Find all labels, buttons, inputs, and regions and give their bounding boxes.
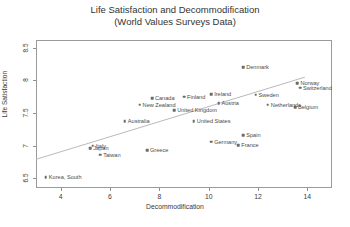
y-tick-mark	[33, 178, 36, 179]
data-point-label: Switzerland	[303, 85, 332, 91]
data-point	[242, 134, 245, 137]
y-tick-mark	[33, 113, 36, 114]
x-tick-label: 8	[157, 193, 161, 200]
x-axis-label: Decommodification	[0, 203, 350, 210]
y-tick-mark	[33, 146, 36, 147]
data-point	[138, 103, 141, 106]
data-point-label: Germany	[214, 139, 237, 145]
data-point	[217, 102, 220, 105]
scatter-chart: Life Satisfaction and Decommodification …	[0, 0, 350, 227]
data-point-label: Australia	[128, 118, 150, 124]
x-tick-label: 12	[254, 193, 262, 200]
data-point	[99, 153, 102, 156]
data-point	[89, 147, 92, 150]
y-tick-mark	[33, 48, 36, 49]
data-point-label: United Kingdom	[177, 107, 217, 113]
data-point	[296, 82, 299, 85]
data-point-label: Austria	[222, 100, 239, 106]
x-tick-mark	[307, 188, 308, 191]
x-tick-mark	[159, 188, 160, 191]
y-tick-label: 8.5	[22, 43, 29, 52]
data-point-label: Netherlands	[271, 102, 301, 108]
y-tick-label: 6.5	[22, 174, 29, 183]
data-point	[146, 149, 149, 152]
data-point	[193, 120, 196, 123]
x-tick-label: 10	[205, 193, 213, 200]
x-tick-mark	[110, 188, 111, 191]
data-point-label: Greece	[150, 147, 168, 153]
data-point-label: Canada	[155, 95, 175, 101]
data-point-label: New Zealand	[143, 102, 176, 108]
y-tick-mark	[33, 80, 36, 81]
x-tick-mark	[61, 188, 62, 191]
data-point	[210, 93, 213, 96]
y-tick-label: 8	[22, 79, 29, 83]
data-point	[124, 120, 127, 123]
data-point	[183, 95, 186, 98]
data-point-label: Japan	[93, 145, 108, 151]
data-point	[242, 66, 245, 69]
data-point	[254, 93, 257, 96]
data-point-label: United States	[197, 118, 231, 124]
data-point	[173, 109, 176, 112]
y-axis-label: Life Satisfaction	[1, 71, 8, 118]
data-point	[45, 176, 48, 179]
chart-title-main: Life Satisfaction and Decommodification	[0, 4, 350, 16]
data-point	[267, 103, 270, 106]
y-tick-label: 7	[22, 144, 29, 148]
chart-subtitle: (World Values Surveys Data)	[0, 16, 350, 28]
data-point-label: Finland	[187, 94, 205, 100]
data-point	[237, 144, 240, 147]
data-point-label: Taiwan	[103, 152, 120, 158]
data-point-label: Ireland	[214, 91, 231, 97]
data-point-label: Sweden	[259, 92, 279, 98]
x-tick-label: 6	[108, 193, 112, 200]
y-tick-label: 7.5	[22, 109, 29, 118]
data-point	[299, 86, 302, 89]
plot-area	[36, 40, 332, 188]
x-tick-label: 4	[59, 193, 63, 200]
x-tick-label: 14	[304, 193, 312, 200]
data-point	[151, 97, 154, 100]
x-tick-mark	[209, 188, 210, 191]
data-point-label: France	[241, 142, 258, 148]
x-tick-mark	[258, 188, 259, 191]
data-point	[210, 140, 213, 143]
data-point-label: Korea, South	[49, 174, 82, 180]
data-point-label: Belgium	[298, 104, 318, 110]
data-point-label: Denmark	[246, 64, 269, 70]
chart-title: Life Satisfaction and Decommodification …	[0, 4, 350, 27]
data-point-label: Spain	[246, 132, 260, 138]
